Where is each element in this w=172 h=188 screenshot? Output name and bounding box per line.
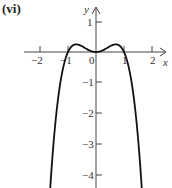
y-tick-label: −3 bbox=[82, 138, 94, 150]
x-axis-label: x bbox=[162, 56, 168, 68]
y-tick-label: 1 bbox=[87, 16, 93, 28]
y-ticks bbox=[96, 22, 102, 175]
x-tick-label: 0 bbox=[89, 54, 95, 66]
y-axis-label: y bbox=[83, 3, 89, 15]
y-tick-label: −2 bbox=[82, 107, 94, 119]
function-graph: −2 −1 0 1 2 x 1 −1 −2 −3 −4 y bbox=[0, 0, 172, 188]
y-tick-label: −4 bbox=[82, 169, 94, 181]
x-tick-label: −2 bbox=[31, 54, 43, 66]
y-tick-label: −1 bbox=[82, 76, 94, 88]
x-tick-label: 2 bbox=[150, 54, 156, 66]
